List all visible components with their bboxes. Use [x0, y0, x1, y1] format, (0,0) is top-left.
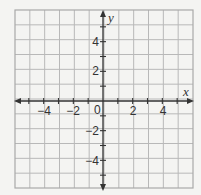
- y-tick-label: 4: [92, 35, 99, 49]
- x-axis-label: x: [182, 84, 189, 99]
- grid-lines: [15, 10, 193, 188]
- x-tick-label: 2: [130, 104, 137, 118]
- y-axis-up-arrow-icon: [100, 10, 106, 17]
- y-tick-label: −2: [85, 124, 99, 138]
- coordinate-plane: x y 0 −4 −2 2 4 4 2 −2 −4: [0, 0, 201, 195]
- x-tick-label: −2: [66, 104, 80, 118]
- x-tick-label: −4: [37, 104, 51, 118]
- y-tick-label: −4: [85, 154, 99, 168]
- x-tick-label: 4: [160, 104, 167, 118]
- y-tick-label: 2: [92, 64, 99, 78]
- origin-label: 0: [94, 103, 101, 117]
- y-axis-label: y: [106, 10, 114, 25]
